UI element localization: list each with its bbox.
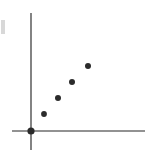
point-3 bbox=[69, 79, 75, 85]
scan-edge-artifact bbox=[1, 20, 5, 34]
scatter-plot-figure bbox=[0, 0, 158, 157]
point-4 bbox=[85, 63, 91, 69]
plot-background bbox=[0, 0, 158, 157]
plot-canvas bbox=[0, 0, 158, 157]
origin-point bbox=[27, 127, 34, 134]
point-1 bbox=[41, 111, 47, 117]
point-2 bbox=[55, 95, 61, 101]
